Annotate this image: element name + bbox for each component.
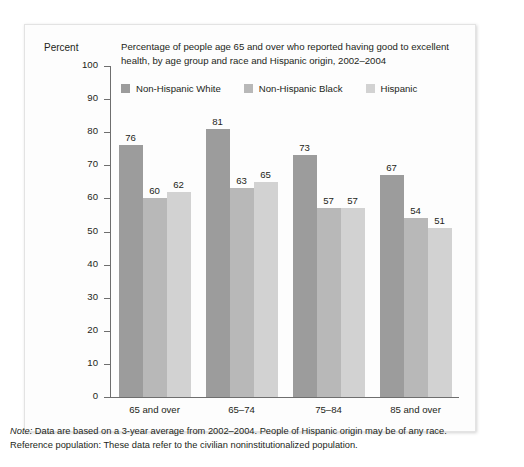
y-tick-mark — [104, 331, 110, 332]
x-axis-line — [110, 397, 459, 398]
bar-group: 67545185 and over — [380, 66, 452, 397]
bar[interactable] — [143, 198, 167, 397]
chart-title: Percentage of people age 65 and over who… — [121, 40, 461, 67]
y-tick-mark — [104, 364, 110, 365]
bar-value-label: 73 — [285, 142, 325, 153]
y-tick-mark — [104, 232, 110, 233]
y-tick-label: 90 — [58, 92, 98, 103]
chart-figure: Percent Percentage of people age 65 and … — [24, 24, 476, 432]
bar-value-label: 62 — [159, 179, 199, 190]
bar[interactable] — [167, 192, 191, 397]
bar-groups: 76606265 and over81636565–7473575775–846… — [111, 66, 459, 397]
bar-group: 73575775–84 — [293, 66, 365, 397]
y-tick-mark — [104, 66, 110, 67]
y-tick-label: 20 — [58, 324, 98, 335]
bar[interactable] — [404, 218, 428, 397]
bar-group: 76606265 and over — [119, 66, 191, 397]
bar-value-label: 76 — [111, 132, 151, 143]
plot-area: 1009080706050403020100 76606265 and over… — [110, 66, 459, 397]
y-tick-mark — [104, 198, 110, 199]
bar[interactable] — [293, 155, 317, 397]
bar[interactable] — [317, 208, 341, 397]
footnote-note-label: Note: — [10, 426, 32, 436]
bar-group: 81636565–74 — [206, 66, 278, 397]
y-axis-label: Percent — [44, 42, 78, 53]
bar[interactable] — [206, 129, 230, 397]
footnote-reference-line: Reference population: These data refer t… — [10, 439, 510, 453]
y-tick-label: 80 — [58, 125, 98, 136]
y-tick-label: 10 — [58, 357, 98, 368]
bar-value-label: 67 — [372, 162, 412, 173]
chart-footnote: Note: Data are based on a 3-year average… — [10, 425, 510, 452]
chart-title-line-1: Percentage of people age 65 and over who… — [121, 41, 449, 52]
y-tick-label: 60 — [58, 191, 98, 202]
y-tick-mark — [104, 99, 110, 100]
y-tick-label: 0 — [58, 390, 98, 401]
y-tick-mark — [104, 397, 110, 398]
bar-value-label: 65 — [246, 169, 286, 180]
bar[interactable] — [230, 188, 254, 397]
bar-value-label: 51 — [420, 215, 460, 226]
y-tick-label: 70 — [58, 158, 98, 169]
y-tick-label: 30 — [58, 291, 98, 302]
chart-title-line-2: health, by age group and race and Hispan… — [121, 55, 386, 66]
bar-value-label: 81 — [198, 116, 238, 127]
footnote-note-line: Note: Data are based on a 3-year average… — [10, 425, 510, 439]
bar[interactable] — [428, 228, 452, 397]
bar[interactable] — [254, 182, 278, 397]
bar[interactable] — [341, 208, 365, 397]
y-tick-mark — [104, 298, 110, 299]
y-tick-mark — [104, 165, 110, 166]
bar[interactable] — [119, 145, 143, 397]
x-axis-category-label: 85 and over — [356, 404, 476, 415]
footnote-note-text: Data are based on a 3-year average from … — [32, 426, 446, 436]
y-tick-mark — [104, 132, 110, 133]
y-tick-label: 50 — [58, 225, 98, 236]
y-tick-mark — [104, 265, 110, 266]
y-tick-label: 40 — [58, 258, 98, 269]
y-tick-label: 100 — [58, 59, 98, 70]
bar-value-label: 57 — [333, 195, 373, 206]
